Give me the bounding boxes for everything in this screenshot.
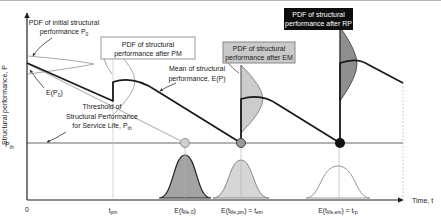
threshold-axis-label: Pth — [5, 141, 14, 150]
threshold-note-line2: Structural Performance — [66, 113, 138, 120]
mean-label-line2: performance, E(P) — [168, 75, 225, 83]
mean-label-line1: Mean of structural — [169, 65, 225, 72]
pdf-after-rp — [340, 27, 357, 101]
y-axis-label: Structural performance, P — [1, 65, 9, 145]
ep0-label: E(P0) — [46, 89, 63, 98]
em-box-line1: PDF of structural — [233, 45, 286, 52]
initial-pdf-arrow — [33, 38, 52, 56]
pm-box-line1: PDF of structural — [122, 41, 175, 48]
rp-box-line2: performance after RP — [285, 20, 352, 28]
initial-pdf-label-line1: PDF of initial structural — [29, 19, 100, 26]
diagram-canvas: PDF of initial structural performance P0… — [0, 1, 441, 219]
pdf-initial-performance — [28, 56, 94, 74]
structural-performance-diagram: PDF of initial structural performance P0… — [0, 0, 441, 219]
rp-application-point — [335, 138, 345, 148]
pm-box-leader — [104, 59, 112, 74]
origin-tick-label: 0 — [25, 206, 29, 213]
threshold-note-line1: Threshold of — [83, 103, 122, 110]
em-box-line2: performance after EM — [225, 54, 293, 62]
mean-label-arrow — [160, 83, 176, 91]
failure-point-no-maintenance — [181, 139, 190, 148]
tick-tpm: tpm — [109, 207, 118, 216]
threshold-note-arrow — [47, 132, 66, 142]
tick-e-tlife0: E(tlife,0) — [174, 207, 195, 216]
threshold-note-line3: for Service Life, Pth — [72, 122, 132, 131]
tick-e-tlifeem: E(tlife,em) = trp — [318, 207, 358, 216]
em-application-point — [237, 139, 246, 148]
tick-e-tlifepm: E(tlife,pm) = tem — [221, 207, 263, 216]
initial-pdf-label-line2: performance P0 — [40, 28, 89, 37]
lifetime-pdf-after-em — [306, 166, 370, 198]
em-box-leader — [228, 63, 239, 73]
rp-box-line1: PDF of structural — [292, 11, 345, 18]
pm-box-line2: performance after PM — [114, 50, 182, 58]
x-axis-label: Time, t — [412, 197, 433, 204]
